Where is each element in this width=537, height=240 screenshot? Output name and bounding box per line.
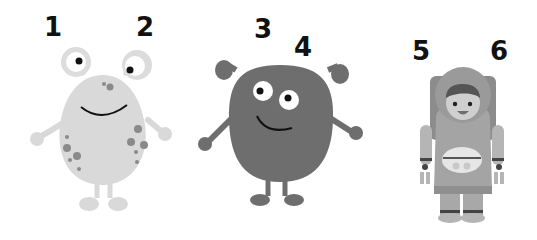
astronaut [420, 67, 504, 223]
light-monster [30, 47, 172, 211]
dark-monster [198, 60, 363, 206]
illustration-canvas [0, 0, 537, 240]
